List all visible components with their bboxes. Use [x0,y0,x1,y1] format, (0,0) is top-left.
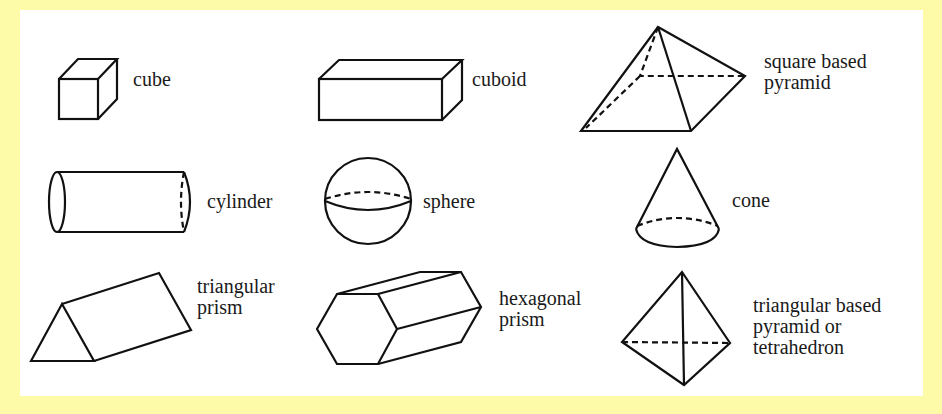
label-line: sphere [423,191,475,212]
label-cube: cube [133,69,171,90]
cuboid-shape [319,60,462,120]
cube-shape [59,59,117,119]
square-based-pyramid-shape [581,27,745,131]
label-line: cylinder [207,191,273,212]
label-tetrahedron: triangular based pyramid or tetrahedron [753,295,881,358]
label-line: prism [197,297,275,318]
label-line: cone [732,190,770,211]
label-sphere: sphere [423,191,475,212]
cone-shape [636,149,719,247]
cylinder-shape [49,172,190,232]
label-square-based-pyramid: square based pyramid [764,51,867,93]
tetrahedron-shape [622,272,730,385]
label-line: pyramid [764,72,867,93]
label-line: tetrahedron [753,337,881,358]
label-line: pyramid or [753,316,881,337]
triangular-prism-shape [31,273,191,361]
label-line: prism [499,309,581,330]
label-cylinder: cylinder [207,191,273,212]
label-line: square based [764,51,867,72]
label-line: triangular [197,276,275,297]
label-line: hexagonal [499,288,581,309]
label-cuboid: cuboid [472,69,526,90]
label-hexagonal-prism: hexagonal prism [499,288,581,330]
sphere-shape [325,158,411,244]
label-line: triangular based [753,295,881,316]
label-line: cuboid [472,69,526,90]
hexagonal-prism-shape [317,272,481,364]
label-cone: cone [732,190,770,211]
label-line: cube [133,69,171,90]
label-triangular-prism: triangular prism [197,276,275,318]
